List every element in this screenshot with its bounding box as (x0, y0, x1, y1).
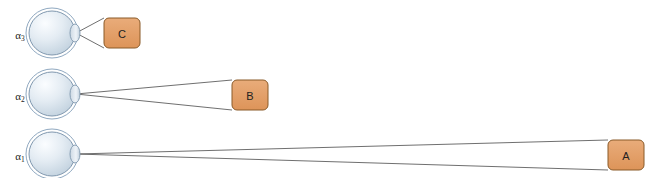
cornea-3 (70, 24, 80, 42)
eye-globe-1 (29, 132, 75, 176)
angle-label-alpha2: α2 (15, 90, 25, 104)
ray-top-b (76, 80, 232, 94)
ray-top-a (76, 140, 608, 154)
cornea-2 (70, 85, 80, 103)
ray-bottom-a (76, 154, 608, 170)
target-box-c-label: C (118, 28, 126, 40)
eye-alpha2 (26, 69, 80, 119)
eye-globe-3 (29, 11, 75, 55)
eye-globe-2 (29, 72, 75, 116)
ray-bundle-a (28, 140, 608, 170)
cornea-1 (70, 145, 80, 163)
target-box-b-label: B (246, 90, 253, 102)
row-alpha1: α1 A (15, 129, 644, 178)
row-alpha3: α3 C (15, 8, 140, 58)
target-box-c[interactable]: C (104, 18, 140, 48)
eye-alpha3 (26, 8, 80, 58)
target-box-a[interactable]: A (608, 140, 644, 170)
diagram-canvas: α3 C α2 B (0, 0, 653, 178)
row-alpha2: α2 B (15, 69, 268, 119)
target-box-a-label: A (622, 150, 630, 162)
eye-alpha1 (26, 129, 80, 178)
target-box-b[interactable]: B (232, 80, 268, 110)
angle-label-alpha1: α1 (15, 150, 25, 164)
ray-bottom-b (76, 94, 232, 110)
visual-angle-diagram: α3 C α2 B (0, 0, 653, 178)
angle-label-alpha3: α3 (15, 29, 25, 43)
